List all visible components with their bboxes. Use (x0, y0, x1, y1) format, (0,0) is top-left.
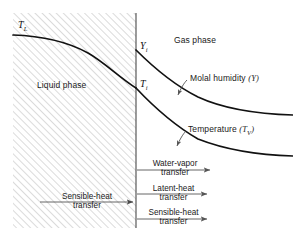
interface-temperature-subscript: i (146, 84, 148, 91)
molal-humidity-symbol-char: Y (251, 73, 256, 83)
transfer-diagram-figure: TL Yi Ti Liquid phase Gas phase Molal hu… (0, 0, 293, 240)
water-vapor-transfer-line2: transfer (139, 168, 211, 177)
latent-heat-transfer-label: Latent-heat transfer (139, 184, 208, 202)
molal-humidity-curve-symbol: (Y) (248, 73, 259, 83)
sensible-heat-transfer-gas-line2: transfer (139, 217, 208, 226)
gas-temperature-curve-symbol: (TV) (239, 124, 254, 134)
water-vapor-transfer-line1: Water-vapor (153, 159, 198, 168)
interface-temperature-label: Ti (140, 78, 148, 91)
molal-humidity-curve-text: Molal humidity (190, 73, 246, 83)
sensible-heat-transfer-label-liquid: Sensible-heat transfer (44, 192, 130, 210)
interface-humidity-label: Yi (140, 40, 148, 53)
sensible-heat-transfer-gas-line1: Sensible-heat (148, 208, 198, 217)
bulk-liquid-temperature-label: TL (18, 19, 27, 32)
water-vapor-transfer-label: Water-vapor transfer (139, 159, 211, 177)
gas-phase-label: Gas phase (174, 36, 216, 46)
sensible-heat-transfer-liquid-line1: Sensible-heat (62, 192, 112, 201)
interface-humidity-subscript: i (146, 46, 148, 53)
latent-heat-transfer-line1: Latent-heat (153, 184, 194, 193)
bulk-liquid-temperature-subscript: L (24, 25, 28, 32)
liquid-phase-label: Liquid phase (37, 81, 86, 91)
sensible-heat-transfer-label-gas: Sensible-heat transfer (139, 208, 208, 226)
gas-temperature-curve-label: Temperature (TV) (188, 125, 254, 136)
gas-temperature-symbol-subscript: V (247, 129, 251, 136)
molal-humidity-curve-label: Molal humidity (Y) (190, 74, 259, 84)
gas-temperature-curve-text: Temperature (188, 124, 237, 134)
sensible-heat-transfer-liquid-line2: transfer (44, 201, 130, 210)
latent-heat-transfer-line2: transfer (139, 193, 208, 202)
